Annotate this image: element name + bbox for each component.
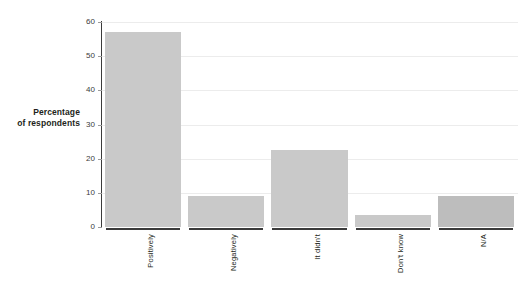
y-axis-tick-label: 10 bbox=[73, 188, 95, 197]
x-axis-category-label: It didn't bbox=[313, 234, 322, 260]
baseline-segment bbox=[272, 228, 346, 230]
bar bbox=[355, 215, 431, 227]
x-axis-category-label: N/A bbox=[479, 234, 488, 247]
x-axis-category-label: Negatively bbox=[229, 234, 238, 271]
y-axis-tick-label: 40 bbox=[73, 85, 95, 94]
baseline-segment bbox=[439, 228, 513, 230]
bar-chart: Percentage of respondents 0102030405060 … bbox=[0, 0, 527, 303]
y-axis-tick-mark bbox=[98, 227, 102, 228]
y-axis-title-line1: Percentage bbox=[4, 107, 80, 118]
bar bbox=[271, 150, 347, 227]
y-axis-tick-mark bbox=[98, 125, 102, 126]
y-axis-tick-label: 0 bbox=[73, 222, 95, 231]
y-axis-tick-mark bbox=[98, 90, 102, 91]
y-axis-tick-mark bbox=[98, 56, 102, 57]
baseline-segment bbox=[189, 228, 263, 230]
bar bbox=[188, 196, 264, 227]
x-axis-category-label: Positively bbox=[146, 234, 155, 268]
y-axis-title-line2: of respondents bbox=[4, 118, 80, 129]
bar bbox=[105, 32, 181, 227]
y-axis-tick-mark bbox=[98, 193, 102, 194]
y-axis-tick-label: 30 bbox=[73, 120, 95, 129]
y-axis-tick-mark bbox=[98, 159, 102, 160]
x-axis-category-label: Don't know bbox=[396, 234, 405, 273]
baseline-segment bbox=[356, 228, 430, 230]
y-axis-tick-label: 50 bbox=[73, 51, 95, 60]
plot-area bbox=[101, 22, 518, 227]
y-axis-tick-mark bbox=[98, 22, 102, 23]
y-axis-title: Percentage of respondents bbox=[4, 107, 80, 129]
y-axis-tick-label: 60 bbox=[73, 17, 95, 26]
baseline-segment bbox=[106, 228, 180, 230]
gridline bbox=[101, 22, 518, 23]
bar bbox=[438, 196, 514, 227]
y-axis-tick-label: 20 bbox=[73, 154, 95, 163]
